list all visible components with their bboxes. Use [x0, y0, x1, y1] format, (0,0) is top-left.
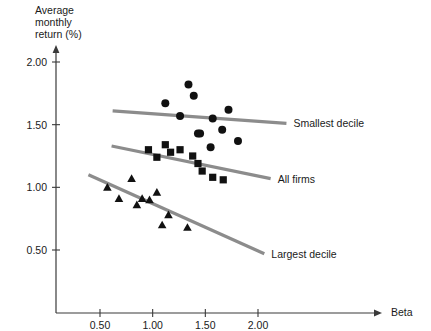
y-axis-title-line-2: monthly [35, 16, 73, 28]
x-tick-label: 1.50 [195, 319, 216, 331]
data-point-square [167, 149, 174, 156]
data-point-triangle [158, 221, 167, 229]
series-label-circle: Smallest decile [293, 117, 364, 129]
trend-lines [88, 111, 286, 254]
data-point-square [199, 167, 206, 174]
data-point-square [153, 154, 160, 161]
series-label-triangle: Largest decile [271, 248, 337, 260]
y-tick-label: 0.50 [27, 244, 48, 256]
x-tick-label: 2.00 [248, 319, 269, 331]
data-point-square [189, 152, 196, 159]
trend-line-triangle [88, 175, 264, 254]
y-tick-label: 2.00 [27, 56, 48, 68]
x-tick-label: 1.00 [142, 319, 163, 331]
data-point-square [194, 160, 201, 167]
x-axis-title: Beta [391, 306, 413, 318]
data-point-square [220, 176, 227, 183]
chart-container: Average monthly return (%) 0.501.001.502… [0, 0, 431, 331]
data-point-triangle [115, 194, 124, 202]
y-axis-title: Average monthly return (%) [35, 4, 82, 40]
data-point-circle [207, 143, 215, 151]
data-point-circle [209, 114, 217, 122]
data-point-square [145, 146, 152, 153]
data-point-circle [176, 112, 184, 120]
data-point-circle [196, 129, 204, 137]
x-axis-arrowhead [374, 310, 382, 317]
series-label-square: All firms [278, 173, 315, 185]
data-point-triangle [153, 188, 162, 196]
data-point-circle [190, 92, 198, 100]
data-point-circle [234, 137, 242, 145]
data-point-triangle [127, 174, 136, 182]
axis-ticks [52, 62, 258, 317]
data-point-triangle [183, 223, 192, 231]
y-axis-arrowhead [53, 45, 60, 53]
data-point-circle [225, 106, 233, 114]
data-point-circle [161, 99, 169, 107]
y-axis-title-line-1: Average [35, 4, 74, 16]
y-axis-title-line-3: return (%) [35, 28, 82, 40]
trend-line-square [112, 146, 271, 179]
data-point-square [209, 174, 216, 181]
series-labels: Smallest decileAll firmsLargest decile [271, 117, 364, 259]
data-point-circle [218, 126, 226, 134]
data-point-square [176, 146, 183, 153]
axis-tick-labels: 0.501.001.502.000.501.001.502.00 [27, 56, 269, 331]
y-tick-label: 1.00 [27, 181, 48, 193]
beta-vs-return-scatter-chart: Average monthly return (%) 0.501.001.502… [0, 0, 431, 331]
y-tick-label: 1.50 [27, 119, 48, 131]
trend-line-circle [113, 111, 287, 124]
x-tick-label: 0.50 [90, 319, 111, 331]
data-point-square [162, 141, 169, 148]
data-point-circle [184, 81, 192, 89]
data-points [103, 81, 242, 231]
